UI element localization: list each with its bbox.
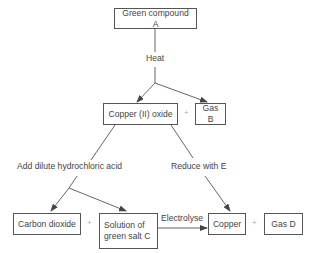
node-gas-d: Gas D [264, 213, 303, 235]
node-gas-b: Gas B [195, 103, 226, 125]
node-label: Copper [213, 219, 241, 230]
edge-label-reduce: Reduce with E [171, 161, 226, 172]
node-label: Green compound A [119, 8, 192, 30]
node-carbon-dioxide: Carbon dioxide [13, 213, 81, 235]
node-label: Gas B [200, 103, 221, 125]
node-label: Copper (II) oxide [108, 109, 172, 120]
edge-label-add-acid: Add dilute hydrochloric acid [17, 161, 122, 172]
node-label-line1: Solution of [104, 220, 145, 231]
node-copper-oxide: Copper (II) oxide [103, 103, 178, 125]
plus-operator: + [252, 218, 257, 227]
node-label-line2: green salt C [104, 231, 150, 242]
plus-operator: + [87, 218, 92, 227]
node-label: Gas D [271, 219, 295, 230]
node-green-compound-a: Green compound A [114, 8, 197, 29]
edge-label-electrolyse: Electrolyse [161, 213, 203, 224]
node-label: Carbon dioxide [18, 219, 76, 230]
node-green-salt-c: Solution of green salt C [99, 213, 158, 249]
plus-operator: + [184, 108, 189, 117]
edge-label-heat: Heat [146, 53, 164, 64]
node-copper: Copper [208, 213, 246, 235]
